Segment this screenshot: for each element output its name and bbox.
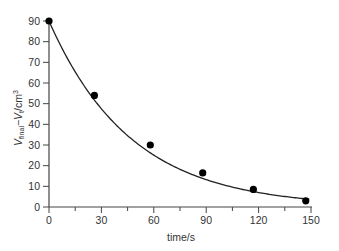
x-tick-label: 60 <box>148 214 160 226</box>
x-axis-title: time/s <box>167 231 195 243</box>
data-point <box>250 186 257 193</box>
x-tick-label: 90 <box>200 214 212 226</box>
chart: 0102030405060708090 0306090120150 time/s… <box>0 0 339 251</box>
data-point <box>147 141 154 148</box>
y-tick-label: 90 <box>28 15 40 27</box>
y-tick-label: 70 <box>28 56 40 68</box>
y-tick-label: 10 <box>28 180 40 192</box>
y-axis-ticks: 0102030405060708090 <box>28 15 49 213</box>
x-axis-ticks: 0306090120150 <box>46 207 320 226</box>
y-tick-label: 20 <box>28 159 40 171</box>
x-tick-label: 30 <box>96 214 108 226</box>
x-tick-label: 150 <box>302 214 320 226</box>
y-tick-label: 40 <box>28 118 40 130</box>
y-tick-label: 60 <box>28 77 40 89</box>
data-point <box>91 92 98 99</box>
fit-curve <box>49 21 309 199</box>
y-tick-label: 50 <box>28 97 40 109</box>
data-point <box>199 169 206 176</box>
x-tick-label: 0 <box>46 214 52 226</box>
data-point <box>45 17 52 24</box>
y-tick-label: 30 <box>28 139 40 151</box>
y-tick-label: 0 <box>34 201 40 213</box>
data-point <box>302 197 309 204</box>
x-tick-label: 120 <box>250 214 268 226</box>
y-axis-title: Vfinal−Vt/cm3 <box>12 90 25 146</box>
y-tick-label: 80 <box>28 35 40 47</box>
data-points <box>45 17 309 204</box>
